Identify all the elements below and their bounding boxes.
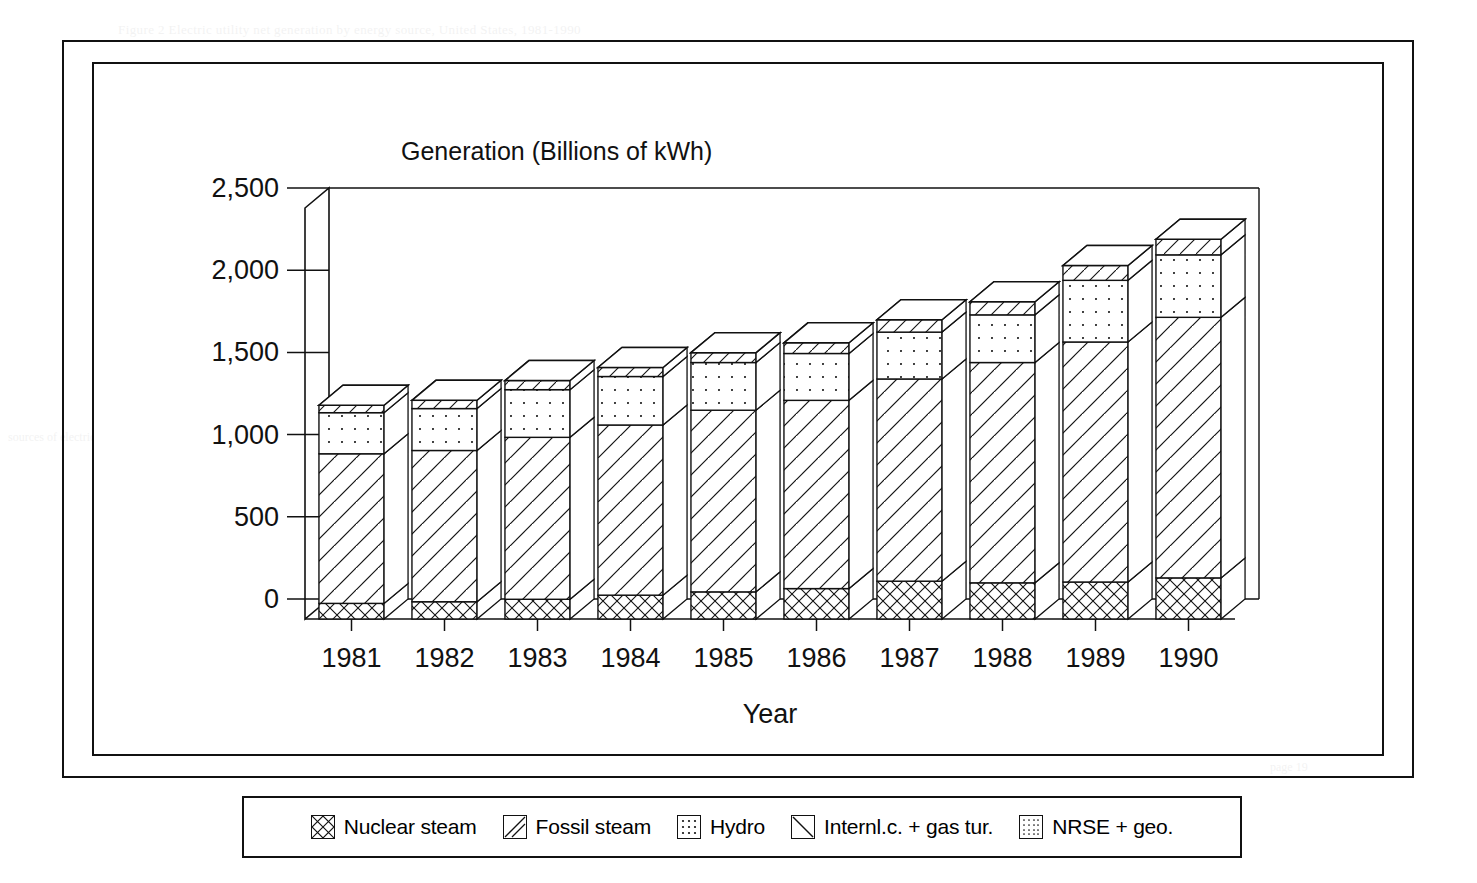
x-axis-tick-label: 1981	[321, 643, 381, 673]
segment-front-1990-fossil	[1156, 317, 1221, 578]
segment-front-1984-other	[598, 367, 663, 376]
swatch-diagonal-back-icon	[791, 815, 815, 839]
segment-front-1981-fossil	[319, 454, 384, 604]
x-axis-title: Year	[743, 699, 798, 729]
segment-front-1984-fossil	[598, 425, 663, 595]
segment-front-1982-hydro	[412, 409, 477, 451]
segment-front-1983-nuclear	[505, 599, 570, 619]
x-axis-tick-label: 1990	[1158, 643, 1218, 673]
segment-side-1987-fossil	[942, 359, 966, 581]
legend-item-4[interactable]: NRSE + geo.	[1019, 815, 1173, 839]
legend-label: Fossil steam	[536, 815, 651, 839]
segment-front-1985-hydro	[691, 363, 756, 411]
y-axis-tick-label: 0	[264, 584, 279, 614]
segment-front-1989-hydro	[1063, 280, 1128, 342]
segment-side-1988-fossil	[1035, 343, 1059, 583]
legend-label: Nuclear steam	[344, 815, 477, 839]
segment-front-1982-other	[412, 400, 477, 408]
stacked-bar-chart-svg: 05001,0001,5002,0002,500Generation (Bill…	[92, 62, 1384, 756]
segment-front-1987-other	[877, 320, 942, 332]
segment-front-1983-other	[505, 381, 570, 390]
swatch-dots-coarse-icon	[677, 815, 701, 839]
segment-side-1985-fossil	[756, 390, 780, 592]
segment-front-1990-hydro	[1156, 255, 1221, 317]
legend-item-3[interactable]: Internl.c. + gas tur.	[791, 815, 993, 839]
bleed-through-top: Figure 2 Electric utility net generation…	[118, 22, 581, 38]
legend-item-0[interactable]: Nuclear steam	[311, 815, 477, 839]
segment-front-1990-other	[1156, 239, 1221, 255]
x-axis-tick-label: 1987	[879, 643, 939, 673]
segment-front-1986-other	[784, 343, 849, 354]
segment-front-1988-other	[970, 302, 1035, 315]
segment-front-1983-fossil	[505, 437, 570, 599]
chart-legend: Nuclear steamFossil steamHydroInternl.c.…	[242, 796, 1242, 858]
segment-side-1982-fossil	[477, 430, 501, 601]
legend-label: Internl.c. + gas tur.	[824, 815, 993, 839]
segment-front-1981-hydro	[319, 413, 384, 454]
segment-front-1987-fossil	[877, 379, 942, 581]
segment-front-1987-hydro	[877, 332, 942, 379]
y-axis-tick-label: 500	[234, 502, 279, 532]
segment-front-1989-fossil	[1063, 342, 1128, 582]
swatch-dots-fine-icon	[1019, 815, 1043, 839]
segment-front-1990-nuclear	[1156, 578, 1221, 619]
segment-front-1989-nuclear	[1063, 582, 1128, 619]
segment-front-1989-other	[1063, 266, 1128, 281]
segment-side-1983-fossil	[570, 417, 594, 599]
segment-front-1985-fossil	[691, 410, 756, 592]
segment-side-1986-fossil	[849, 380, 873, 588]
x-axis-tick-label: 1984	[600, 643, 660, 673]
legend-label: NRSE + geo.	[1052, 815, 1173, 839]
segment-front-1984-hydro	[598, 377, 663, 425]
chart-plot-area: 05001,0001,5002,0002,500Generation (Bill…	[92, 62, 1384, 756]
segment-side-1989-fossil	[1128, 322, 1152, 582]
y-axis-tick-label: 1,000	[211, 420, 279, 450]
segment-front-1988-nuclear	[970, 583, 1035, 619]
segment-front-1987-nuclear	[877, 581, 942, 619]
x-axis-tick-label: 1985	[693, 643, 753, 673]
segment-front-1986-nuclear	[784, 589, 849, 619]
y-axis-tick-label: 2,500	[211, 173, 279, 203]
segment-front-1985-other	[691, 353, 756, 363]
segment-front-1984-nuclear	[598, 595, 663, 619]
segment-side-1984-fossil	[663, 405, 687, 595]
segment-front-1985-nuclear	[691, 592, 756, 619]
legend-label: Hydro	[710, 815, 765, 839]
y-axis-title: Generation (Billions of kWh)	[401, 137, 712, 165]
swatch-diagonal-forward-icon	[503, 815, 527, 839]
segment-front-1982-fossil	[412, 450, 477, 601]
y-axis-tick-label: 1,500	[211, 337, 279, 367]
x-axis-tick-label: 1986	[786, 643, 846, 673]
x-axis-tick-label: 1989	[1065, 643, 1125, 673]
segment-front-1981-other	[319, 405, 384, 412]
segment-front-1983-hydro	[505, 390, 570, 438]
segment-front-1986-fossil	[784, 400, 849, 588]
x-axis-tick-label: 1982	[414, 643, 474, 673]
segment-front-1982-nuclear	[412, 602, 477, 619]
segment-side-1981-fossil	[384, 434, 408, 604]
segment-front-1988-hydro	[970, 315, 1035, 363]
legend-item-2[interactable]: Hydro	[677, 815, 765, 839]
x-axis-tick-label: 1983	[507, 643, 567, 673]
segment-front-1986-hydro	[784, 353, 849, 400]
segment-front-1981-nuclear	[319, 603, 384, 619]
swatch-crosshatch-icon	[311, 815, 335, 839]
segment-side-1990-fossil	[1221, 297, 1245, 578]
y-axis-tick-label: 2,000	[211, 255, 279, 285]
x-axis-tick-label: 1988	[972, 643, 1032, 673]
segment-front-1988-fossil	[970, 363, 1035, 583]
legend-item-1[interactable]: Fossil steam	[503, 815, 651, 839]
